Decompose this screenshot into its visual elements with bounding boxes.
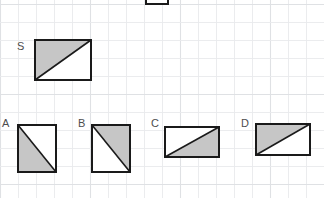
reference-shape-s[interactable] [35, 40, 91, 80]
clipped-rectangle-top-icon [146, 0, 168, 4]
option-shape-c[interactable] [165, 127, 219, 157]
worksheet-canvas: S A B C D [0, 0, 324, 198]
shape-label-b: B [78, 118, 85, 129]
option-shape-a[interactable] [18, 125, 56, 172]
shape-layer [0, 0, 324, 198]
option-shape-d[interactable] [256, 124, 310, 155]
shape-label-d: D [241, 118, 249, 129]
shape-label-s: S [17, 41, 24, 52]
shape-label-a: A [2, 118, 9, 129]
shape-label-c: C [151, 118, 159, 129]
option-shape-b[interactable] [92, 125, 130, 172]
